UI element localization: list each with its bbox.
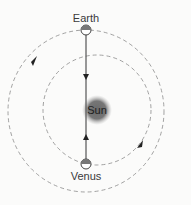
earth-icon	[81, 25, 91, 35]
venus-icon	[81, 159, 91, 169]
venus-label: Venus	[71, 170, 102, 182]
orbit-diagram: Sun Earth Venus	[0, 0, 191, 205]
arrow-up-icon	[83, 134, 89, 140]
sun-label: Sun	[87, 104, 107, 116]
outer-orbit-arrow-icon	[31, 56, 37, 66]
earth-label: Earth	[73, 12, 99, 24]
arrow-down-icon	[83, 74, 89, 80]
inner-orbit-arrow-icon	[137, 140, 143, 148]
